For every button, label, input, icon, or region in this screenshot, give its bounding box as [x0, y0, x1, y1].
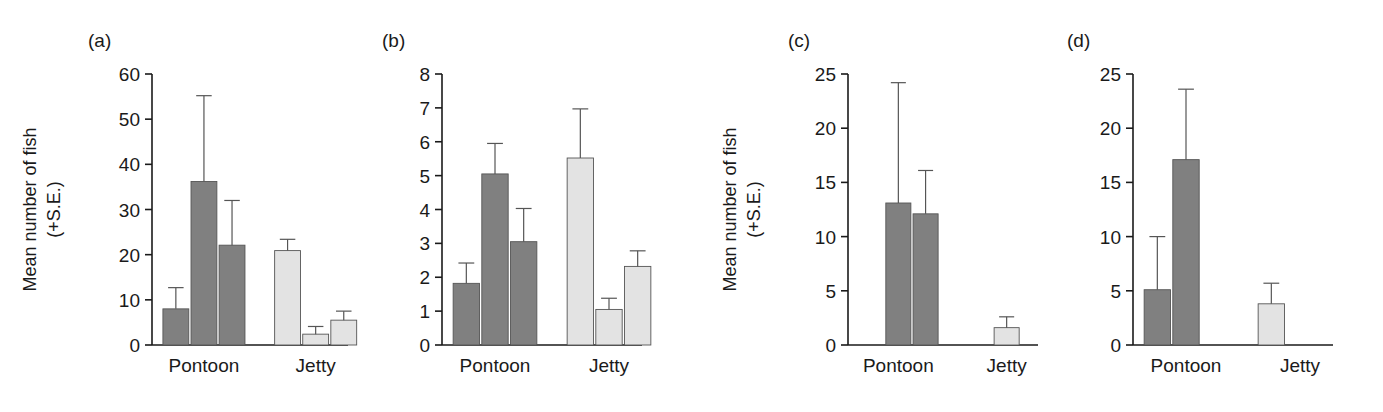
- y-axis-title-line2: (+S.E.): [744, 181, 764, 238]
- bar-d-pontoon-2: [1173, 160, 1199, 345]
- y-tick-label-d-2: 10: [1100, 227, 1121, 248]
- bar-b-pontoon-1: [453, 283, 479, 345]
- bar-d-jetty-1: [1258, 304, 1284, 345]
- y-tick-label-c-2: 10: [815, 227, 836, 248]
- bar-b-pontoon-3: [510, 242, 536, 345]
- y-tick-label-a-6: 60: [119, 64, 140, 85]
- chart-svg-b: (b)012345678PontoonJetty: [370, 0, 670, 412]
- y-tick-label-c-3: 15: [815, 172, 836, 193]
- y-tick-label-b-6: 6: [419, 132, 430, 153]
- y-tick-label-d-3: 15: [1100, 172, 1121, 193]
- bar-a-jetty-2: [303, 334, 329, 345]
- y-tick-label-b-4: 4: [419, 200, 430, 221]
- y-tick-label-a-0: 0: [129, 335, 140, 356]
- x-axis-label-d-jetty: Jetty: [1280, 355, 1321, 376]
- bar-a-jetty-1: [275, 251, 301, 345]
- x-axis-label-b-jetty: Jetty: [589, 355, 630, 376]
- y-tick-label-a-5: 50: [119, 109, 140, 130]
- panel-letter-b: (b): [382, 30, 405, 51]
- x-axis-label-a-jetty: Jetty: [296, 355, 337, 376]
- figure-container: (a)Mean number of fish(+S.E.)01020304050…: [0, 0, 1383, 412]
- bar-c-jetty-2: [994, 328, 1019, 345]
- bar-a-pontoon-3: [219, 245, 245, 345]
- y-tick-label-c-5: 25: [815, 64, 836, 85]
- x-axis-label-c-pontoon: Pontoon: [863, 355, 934, 376]
- x-axis-label-a-pontoon: Pontoon: [169, 355, 240, 376]
- y-axis-title-line1: Mean number of fish: [720, 127, 740, 291]
- bar-a-pontoon-2: [191, 182, 217, 346]
- y-tick-label-d-5: 25: [1100, 64, 1121, 85]
- x-axis-label-d-pontoon: Pontoon: [1151, 355, 1222, 376]
- bar-b-jetty-3: [624, 266, 650, 345]
- y-tick-label-b-0: 0: [419, 335, 430, 356]
- y-tick-label-c-0: 0: [825, 335, 836, 356]
- y-tick-label-b-2: 2: [419, 267, 430, 288]
- y-tick-label-b-5: 5: [419, 166, 430, 187]
- bar-b-pontoon-2: [482, 174, 508, 345]
- bar-a-pontoon-1: [163, 309, 189, 345]
- chart-panel-b: (b)012345678PontoonJetty: [370, 0, 670, 412]
- y-axis-title-c: Mean number of fish(+S.E.): [720, 127, 764, 291]
- y-tick-label-b-8: 8: [419, 64, 430, 85]
- chart-panel-a: (a)Mean number of fish(+S.E.)01020304050…: [0, 0, 370, 412]
- y-tick-label-d-1: 5: [1110, 281, 1121, 302]
- y-tick-label-b-7: 7: [419, 98, 430, 119]
- y-tick-label-d-0: 0: [1110, 335, 1121, 356]
- bar-c-pontoon-3: [913, 214, 938, 345]
- chart-svg-c: (c)Mean number of fish(+S.E.)0510152025P…: [700, 0, 1055, 412]
- chart-panel-c: (c)Mean number of fish(+S.E.)0510152025P…: [700, 0, 1055, 412]
- y-tick-label-d-4: 20: [1100, 118, 1121, 139]
- y-tick-label-b-3: 3: [419, 233, 430, 254]
- panel-letter-c: (c): [788, 30, 810, 51]
- bar-b-jetty-1: [567, 158, 593, 345]
- y-tick-label-a-2: 20: [119, 245, 140, 266]
- chart-panel-d: (d)0510152025PontoonJetty: [1055, 0, 1383, 412]
- x-axis-label-c-jetty: Jetty: [987, 355, 1028, 376]
- chart-svg-d: (d)0510152025PontoonJetty: [1055, 0, 1383, 412]
- y-tick-label-c-4: 20: [815, 118, 836, 139]
- y-tick-label-a-1: 10: [119, 290, 140, 311]
- y-tick-label-a-4: 40: [119, 154, 140, 175]
- y-tick-label-a-3: 30: [119, 200, 140, 221]
- x-axis-label-b-pontoon: Pontoon: [460, 355, 531, 376]
- chart-svg-a: (a)Mean number of fish(+S.E.)01020304050…: [0, 0, 370, 412]
- bar-d-pontoon-1: [1144, 290, 1170, 345]
- y-axis-title-line1: Mean number of fish: [20, 127, 40, 291]
- panel-letter-a: (a): [88, 30, 111, 51]
- bar-a-jetty-3: [331, 320, 357, 345]
- y-tick-label-c-1: 5: [825, 281, 836, 302]
- panel-letter-d: (d): [1067, 30, 1090, 51]
- y-axis-title-line2: (+S.E.): [44, 181, 64, 238]
- y-axis-title-a: Mean number of fish(+S.E.): [20, 127, 64, 291]
- bar-b-jetty-2: [596, 309, 622, 345]
- y-tick-label-b-1: 1: [419, 301, 430, 322]
- bar-c-pontoon-2: [886, 203, 911, 345]
